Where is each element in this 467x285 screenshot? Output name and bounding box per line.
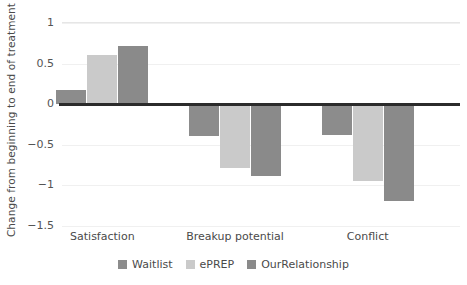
bar (118, 46, 148, 104)
plot-area (62, 22, 460, 226)
bar-group (56, 23, 148, 226)
legend-label: Waitlist (132, 258, 172, 271)
legend-swatch-icon (247, 260, 256, 269)
y-axis-tick-label: −1 (0, 178, 54, 191)
y-axis-tick-labels: 10.50−0.5−1−1.5 (0, 22, 58, 226)
bar (56, 90, 86, 104)
zero-axis-line (59, 103, 460, 106)
gridline (62, 226, 460, 227)
bar (353, 104, 383, 181)
x-axis-category-labels: SatisfactionBreakup potentialConflict (62, 230, 460, 246)
x-axis-category-label: Conflict (347, 230, 389, 243)
bar (322, 104, 352, 135)
bar (87, 55, 117, 104)
legend-swatch-icon (186, 260, 195, 269)
bar (189, 104, 219, 136)
bar-chart: Change from beginning to end of treatmen… (0, 0, 467, 285)
legend-item[interactable]: Waitlist (118, 258, 172, 271)
y-axis-tick-label: −1.5 (0, 219, 54, 232)
x-axis-category-label: Breakup potential (186, 230, 284, 243)
bar (251, 104, 281, 175)
legend-swatch-icon (118, 260, 127, 269)
legend-item[interactable]: OurRelationship (247, 258, 349, 271)
chart-legend: WaitlistePREPOurRelationship (0, 258, 467, 271)
y-axis-tick-label: 0 (0, 97, 54, 110)
bar (384, 104, 414, 201)
legend-label: ePREP (200, 258, 235, 271)
legend-label: OurRelationship (261, 258, 349, 271)
x-axis-category-label: Satisfaction (70, 230, 135, 243)
y-axis-tick-label: −0.5 (0, 137, 54, 150)
bar-group (322, 23, 414, 226)
legend-item[interactable]: ePREP (186, 258, 235, 271)
y-axis-tick-label: 1 (0, 16, 54, 29)
bar-group (189, 23, 281, 226)
bar (220, 104, 250, 168)
y-axis-tick-label: 0.5 (0, 56, 54, 69)
